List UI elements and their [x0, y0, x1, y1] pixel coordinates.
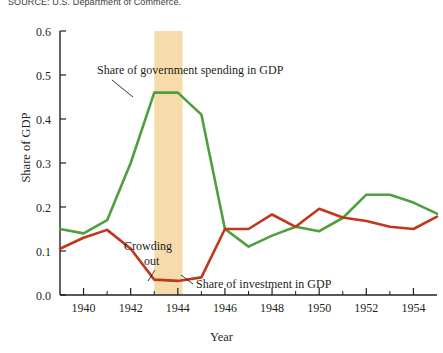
investment-label: Share of investment in GDP: [196, 277, 332, 291]
chart-container: 0.00.10.20.30.40.50.61940194219441946194…: [0, 0, 443, 353]
y-tick-label: 0.6: [36, 25, 51, 39]
series-line: [60, 209, 437, 281]
x-tick-label: 1940: [72, 301, 96, 315]
y-tick-label: 0.3: [36, 157, 51, 171]
crowding-out-label-line2: out: [144, 254, 160, 268]
x-tick-label: 1950: [307, 301, 331, 315]
x-tick-label: 1942: [119, 301, 143, 315]
data-series-layer: [60, 93, 437, 281]
figure-root: SOURCE: U.S. Department of Commerce. 0.0…: [0, 0, 443, 353]
x-tick-label: 1954: [401, 301, 425, 315]
x-axis-title: Year: [0, 330, 443, 345]
y-tick-label: 0.1: [36, 245, 51, 259]
government-spending-label: Share of government spending in GDP: [97, 63, 284, 77]
y-axis-title: Share of GDP: [19, 78, 34, 218]
y-tick-label: 0.2: [36, 201, 51, 215]
line-chart: 0.00.10.20.30.40.50.61940194219441946194…: [0, 0, 443, 353]
y-tick-label: 0.0: [36, 289, 51, 303]
x-tick-label: 1944: [166, 301, 190, 315]
y-tick-label: 0.5: [36, 69, 51, 83]
x-tick-label: 1948: [260, 301, 284, 315]
x-tick-label: 1946: [213, 301, 237, 315]
crowding-out-label-line1: Crowding: [124, 239, 172, 253]
government-spending-leader: [112, 80, 133, 97]
y-tick-label: 0.4: [36, 113, 51, 127]
x-tick-label: 1952: [354, 301, 378, 315]
